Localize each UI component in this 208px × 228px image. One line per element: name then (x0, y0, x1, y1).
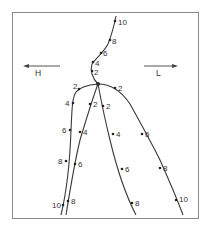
branch-marker: 6 (78, 160, 83, 169)
branch-marker: 4 (116, 130, 121, 139)
branch-marker: 10 (179, 195, 188, 204)
branch-marker: 2 (73, 82, 78, 91)
branch-marker: 2 (106, 102, 111, 111)
left-arrow (23, 64, 60, 68)
right-arrow-label: L (156, 68, 161, 78)
trunk-marker: 8 (112, 37, 117, 46)
left-arrow-label: H (35, 68, 41, 78)
branch-marker: 6 (145, 130, 150, 139)
branch-marker: 6 (62, 126, 67, 135)
trajectory-diagram: H L 10 8 6 4 2 2 4 6 8 10 2 4 6 (0, 0, 208, 228)
branch-marker: 10 (52, 201, 61, 210)
branch-marker: 8 (58, 157, 63, 166)
branch-far-right (98, 84, 183, 215)
trunk-marker: 2 (94, 68, 99, 77)
branch-marker: 8 (135, 199, 140, 208)
branch-marker: 8 (71, 197, 76, 206)
trunk-marker: 4 (95, 59, 100, 68)
branch-marker: 6 (125, 165, 130, 174)
right-arrow (144, 64, 178, 68)
trunk-marker: 6 (103, 49, 108, 58)
diagram-frame (13, 13, 199, 219)
trunk-marker: 10 (118, 18, 127, 27)
branch-marker: 4 (83, 128, 88, 137)
branch-marker: 4 (65, 99, 70, 108)
branch-marker: 2 (118, 84, 123, 93)
branch-marker: 8 (163, 164, 168, 173)
branch-marker: 2 (93, 100, 98, 109)
